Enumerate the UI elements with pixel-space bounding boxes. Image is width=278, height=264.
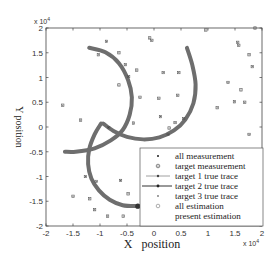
legend-entry: all estimation [175,201,224,211]
y-tick-label: 2 [39,24,44,33]
y-tick-label: -1.5 [29,197,43,206]
y-axis-title: Y position [14,106,25,148]
legend-entry: target 2 true trace [175,181,238,191]
x-tick-label: -1.5 [66,229,80,238]
x-tick-label: -1 [96,229,104,238]
x-axis-title: X position [124,237,180,251]
legend-entry: present estimation [175,211,241,221]
x-tick-label: 2 [260,229,265,238]
x-exponent-label: x 104 [243,238,259,247]
legend-entry: target 1 true trace [175,171,238,181]
legend: all measurementtarget measurementtarget … [140,148,263,226]
y-tick-label: -2 [36,222,44,231]
estimation-dot [135,204,140,209]
y-tick-label: -0.5 [29,148,43,157]
y-tick-label: -1 [36,173,44,182]
present-estimation-marker [135,204,140,209]
x-tick-label: -2 [42,229,50,238]
x-tick-label: 1 [206,229,211,238]
y-tick-label: 0.5 [32,98,44,107]
legend-entry: target 3 true trace [175,191,238,201]
legend-entry: target measurement [175,161,246,171]
y-tick-label: 1.5 [32,49,44,58]
legend-entry: all measurement [175,151,235,161]
tracking-chart: -2-1.5-1-0.500.511.52 -2-1.5-1-0.500.511… [0,0,278,264]
x-tick-label: 1.5 [229,229,241,238]
y-tick-label: 0 [39,123,44,132]
y-tick-label: 1 [39,74,44,83]
y-exponent-label: x 104 [34,16,50,25]
